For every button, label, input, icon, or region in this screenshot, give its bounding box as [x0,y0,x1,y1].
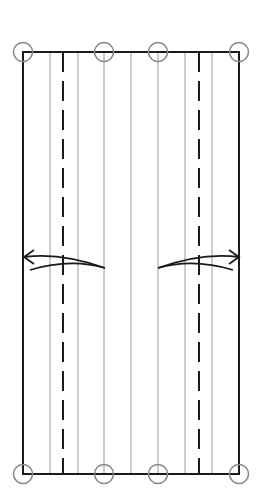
fold-left-arrow [24,250,105,270]
fold-diagram [0,0,264,498]
